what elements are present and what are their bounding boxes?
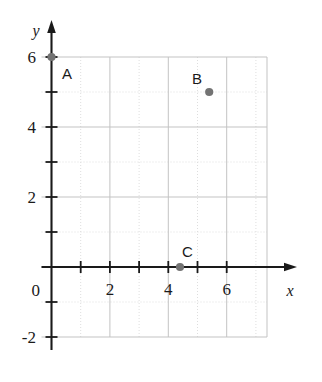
- y-axis-label: y: [30, 22, 40, 40]
- axes: [42, 20, 298, 350]
- data-point-c: [176, 263, 184, 271]
- major-gridlines: [42, 57, 268, 337]
- x-axis-arrowhead: [284, 263, 297, 272]
- y-tick-label-2: 2: [28, 188, 37, 207]
- coordinate-plane-svg: 2 4 6 6 4 2 0 -2 y x A B C: [0, 0, 322, 382]
- y-tick-label-neg2: -2: [22, 328, 36, 347]
- x-tick-label-4: 4: [164, 280, 173, 299]
- x-tick-label-6: 6: [222, 280, 231, 299]
- data-point-label-b: B: [192, 70, 202, 87]
- x-axis-label: x: [285, 282, 293, 299]
- data-point-label-a: A: [62, 65, 72, 82]
- data-point-label-c: C: [182, 243, 193, 260]
- data-point-b: [205, 88, 213, 96]
- coordinate-plane-figure: 2 4 6 6 4 2 0 -2 y x A B C: [0, 0, 322, 382]
- data-point-a: [47, 53, 55, 61]
- y-tick-label-4: 4: [28, 118, 37, 137]
- y-tick-label-6: 6: [28, 48, 37, 67]
- y-axis-arrowhead: [47, 20, 56, 33]
- y-tick-label-0: 0: [32, 281, 41, 300]
- x-tick-label-2: 2: [106, 280, 115, 299]
